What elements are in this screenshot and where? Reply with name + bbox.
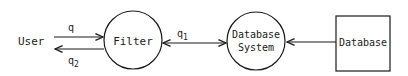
node-user-label: User (18, 35, 45, 48)
node-database-system-label-line1: Database (232, 29, 280, 40)
edge-q2-label: q2 (68, 55, 79, 69)
node-database-system-label-line2: System (238, 42, 274, 53)
node-database-label: Database (339, 37, 387, 48)
node-database: Database (336, 16, 390, 71)
edge-q-label: q (68, 22, 74, 33)
edge-q2-filter-to-user: q2 (55, 49, 104, 69)
edge-q1-label: q1 (177, 28, 188, 42)
node-database-system: Database System (227, 12, 285, 70)
node-filter: Filter (104, 11, 162, 69)
node-filter-label: Filter (113, 35, 153, 48)
data-flow-diagram: User q q2 Filter q1 Database System (0, 0, 408, 76)
edge-q1-filter-dbsystem: q1 (163, 28, 226, 43)
edge-q-user-to-filter: q (54, 22, 103, 37)
